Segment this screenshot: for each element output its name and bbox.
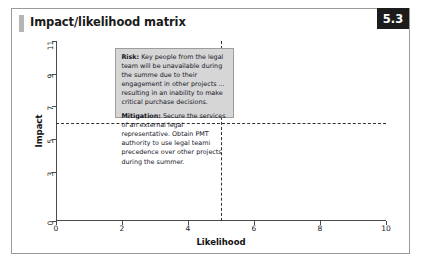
callout-risk-paragraph: Risk: Key people from the legal team wil… bbox=[121, 53, 228, 108]
impact-likelihood-plot: Impact Likelihood 0357911 0246810 Risk: … bbox=[56, 41, 386, 221]
y-tick-label: 9 bbox=[47, 73, 55, 78]
page-title: Impact/likelihood matrix bbox=[30, 15, 186, 29]
x-tick-label: 2 bbox=[120, 225, 125, 233]
y-tick-label: 11 bbox=[47, 41, 55, 51]
title-accent-bar bbox=[19, 15, 24, 32]
callout-mitigation-label: Mitigation: bbox=[121, 112, 160, 120]
callout-mitigation-text: Secure the services of an external legal… bbox=[121, 112, 225, 165]
x-tick-label: 6 bbox=[252, 225, 257, 233]
figure-number-badge: 5.3 bbox=[377, 8, 409, 29]
x-tick-label: 4 bbox=[186, 225, 191, 233]
x-axis-label: Likelihood bbox=[196, 237, 245, 247]
figure-header: Impact/likelihood matrix 5.3 bbox=[12, 9, 409, 37]
risk-mitigation-callout: Risk: Key people from the legal team wil… bbox=[115, 48, 234, 118]
x-tick-label: 8 bbox=[318, 225, 323, 233]
y-axis-line bbox=[56, 41, 57, 221]
x-tick-label: 10 bbox=[381, 225, 391, 233]
y-tick-label: 5 bbox=[47, 139, 55, 144]
callout-risk-label: Risk: bbox=[121, 53, 139, 61]
y-axis-label: Impact bbox=[34, 115, 44, 148]
y-tick-label: 3 bbox=[47, 172, 55, 177]
x-tick-label: 0 bbox=[54, 225, 59, 233]
figure-container: Impact/likelihood matrix 5.3 Impact Like… bbox=[11, 8, 410, 254]
callout-mitigation-paragraph: Mitigation: Secure the services of an ex… bbox=[121, 112, 228, 167]
y-tick-label: 7 bbox=[47, 106, 55, 111]
